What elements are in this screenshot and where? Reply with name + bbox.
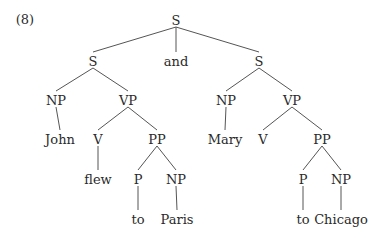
tree-edge	[157, 146, 176, 170]
tree-node-paris: Paris	[161, 212, 194, 227]
tree-node-np4: NP	[331, 172, 351, 187]
tree-node-np3: NP	[166, 172, 186, 187]
tree-node-vp2: VP	[282, 93, 301, 108]
tree-node-and: and	[164, 54, 188, 69]
tree-edge	[292, 107, 322, 130]
example-number: (8)	[16, 12, 34, 27]
tree-node-v2: V	[257, 132, 268, 147]
tree-node-mary: Mary	[208, 132, 243, 147]
tree-edge	[138, 146, 157, 170]
tree-node-s1: S	[89, 54, 98, 69]
tree-edge	[263, 107, 292, 130]
tree-edge	[226, 68, 259, 91]
tree-edge	[93, 27, 176, 52]
tree-node-np1: NP	[46, 93, 66, 108]
tree-edge	[128, 107, 157, 130]
tree-node-p2: P	[299, 172, 308, 187]
tree-edge	[56, 107, 60, 130]
tree-node-np2: NP	[216, 93, 236, 108]
tree-edge	[98, 107, 128, 130]
tree-node-p1: P	[134, 172, 143, 187]
tree-node-chicago: Chicago	[314, 212, 368, 227]
tree-node-pp1: PP	[148, 132, 166, 147]
tree-edge	[259, 68, 292, 91]
tree-node-vp1: VP	[118, 93, 137, 108]
tree-node-s2: S	[255, 54, 264, 69]
tree-node-flew: flew	[84, 172, 112, 187]
syntax-tree: (8) SSandSNPVPNPVPJohnVPPMaryVPPflewPNPP…	[0, 0, 381, 241]
tree-edge	[56, 68, 93, 91]
tree-edge	[322, 146, 341, 170]
tree-edge	[225, 107, 226, 130]
tree-nodes: (8) SSandSNPVPNPVPJohnVPPMaryVPPflewPNPP…	[16, 12, 368, 227]
tree-node-v1: V	[92, 132, 103, 147]
tree-edge	[176, 27, 259, 52]
tree-node-john: John	[43, 132, 75, 147]
tree-node-s0: S	[172, 13, 181, 28]
tree-node-to1: to	[131, 212, 144, 227]
tree-edge	[303, 146, 322, 170]
tree-node-pp2: PP	[313, 132, 331, 147]
tree-edge	[93, 68, 128, 91]
tree-node-to2: to	[296, 212, 309, 227]
tree-edge	[176, 186, 177, 210]
